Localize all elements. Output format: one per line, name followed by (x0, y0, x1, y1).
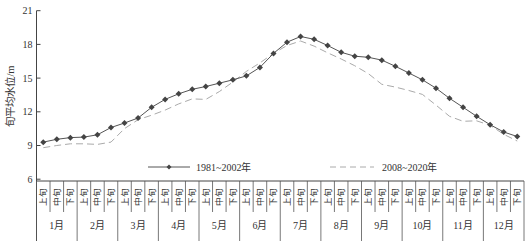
data-point-marker (122, 120, 128, 126)
data-point-marker (81, 134, 87, 140)
x-month-label: 4月 (171, 220, 186, 231)
data-point-marker (108, 125, 114, 131)
x-dekad-label: 中旬 (92, 188, 102, 206)
plot-area (40, 34, 520, 148)
y-axis-ticks: 6912151821 (23, 5, 41, 185)
y-tick-label: 18 (23, 39, 33, 50)
x-dekad-label: 上旬 (404, 188, 414, 206)
x-dekad-label: 上旬 (120, 188, 130, 206)
series-1981-2002-line (43, 37, 517, 143)
x-dekad-label: 下旬 (350, 188, 360, 206)
data-point-marker (460, 104, 466, 110)
x-month-label: 7月 (293, 220, 308, 231)
x-dekad-label: 下旬 (228, 188, 238, 206)
data-point-marker (501, 129, 507, 135)
data-point-marker (162, 96, 168, 102)
data-point-marker (94, 132, 100, 138)
data-point-marker (392, 63, 398, 69)
line-chart: 6912151821 旬平均水位/m 上旬中旬下旬上旬中旬下旬上旬中旬下旬上旬中… (0, 0, 530, 246)
x-dekad-label: 中旬 (499, 188, 509, 206)
data-point-marker (230, 77, 236, 83)
y-tick-label: 6 (28, 174, 33, 185)
y-tick-label: 15 (23, 73, 33, 84)
legend-label-series-1: 1981~2002年 (196, 161, 251, 173)
x-dekad-label: 下旬 (268, 188, 278, 206)
data-point-marker (54, 136, 60, 142)
x-dekad-label: 中旬 (133, 188, 143, 206)
y-tick-label: 21 (23, 5, 33, 16)
data-point-marker (406, 70, 412, 76)
y-tick-label: 9 (28, 140, 33, 151)
x-dekad-label: 中旬 (417, 188, 427, 206)
data-point-marker (203, 84, 209, 90)
x-month-label: 1月 (49, 220, 64, 231)
x-month-label: 10月 (412, 220, 432, 231)
legend: 1981~2002年 2008~2020年 (148, 161, 437, 173)
data-point-marker (189, 86, 195, 92)
x-month-label: 6月 (252, 220, 267, 231)
x-month-label: 8月 (334, 220, 349, 231)
x-dekad-label: 上旬 (241, 188, 251, 206)
x-dekad-label: 下旬 (431, 188, 441, 206)
x-dekad-label: 上旬 (160, 188, 170, 206)
data-point-marker (365, 54, 371, 60)
x-dekad-label: 下旬 (472, 188, 482, 206)
x-dekad-label: 下旬 (65, 188, 75, 206)
data-point-marker (419, 77, 425, 83)
data-point-marker (338, 49, 344, 55)
x-month-label: 9月 (374, 220, 389, 231)
x-dekad-label: 上旬 (445, 188, 455, 206)
y-tick-label: 12 (23, 106, 33, 117)
data-point-marker (40, 139, 46, 145)
legend-label-series-2: 2008~2020年 (382, 161, 437, 173)
x-dekad-label: 下旬 (390, 188, 400, 206)
x-axis-table: 上旬中旬下旬上旬中旬下旬上旬中旬下旬上旬中旬下旬上旬中旬下旬上旬中旬下旬上旬中旬… (37, 181, 525, 241)
x-dekad-label: 中旬 (52, 188, 62, 206)
x-dekad-label: 上旬 (282, 188, 292, 206)
x-month-label: 12月 (494, 220, 514, 231)
legend-item-series-1: 1981~2002年 (148, 161, 251, 173)
x-month-label: 11月 (453, 220, 473, 231)
x-dekad-label: 下旬 (187, 188, 197, 206)
x-dekad-label: 上旬 (323, 188, 333, 206)
x-dekad-label: 上旬 (485, 188, 495, 206)
series-2008-2020-line (43, 41, 517, 148)
x-dekad-label: 下旬 (147, 188, 157, 206)
x-month-label: 2月 (90, 220, 105, 231)
data-point-marker (379, 57, 385, 63)
data-point-marker (243, 73, 249, 79)
x-dekad-label: 下旬 (309, 188, 319, 206)
data-point-marker (216, 80, 222, 86)
data-point-marker (514, 134, 520, 140)
x-dekad-label: 中旬 (214, 188, 224, 206)
data-point-marker (352, 53, 358, 59)
x-dekad-label: 上旬 (201, 188, 211, 206)
x-dekad-label: 中旬 (377, 188, 387, 206)
x-dekad-label: 下旬 (512, 188, 522, 206)
data-point-marker (67, 135, 73, 141)
x-month-label: 5月 (212, 220, 227, 231)
x-dekad-label: 上旬 (79, 188, 89, 206)
x-dekad-label: 中旬 (255, 188, 265, 206)
data-point-marker (311, 36, 317, 42)
x-month-label: 3月 (131, 220, 146, 231)
diamond-marker-icon (167, 165, 172, 170)
data-point-marker (298, 34, 304, 40)
data-point-marker (325, 43, 331, 49)
x-dekad-label: 上旬 (363, 188, 373, 206)
data-point-marker (474, 113, 480, 119)
x-dekad-label: 中旬 (296, 188, 306, 206)
y-axis-label: 旬平均水位/m (4, 65, 16, 126)
x-dekad-label: 上旬 (38, 188, 48, 206)
x-dekad-label: 中旬 (174, 188, 184, 206)
x-dekad-label: 中旬 (458, 188, 468, 206)
x-dekad-label: 中旬 (336, 188, 346, 206)
x-dekad-label: 下旬 (106, 188, 116, 206)
data-point-marker (176, 91, 182, 97)
legend-item-series-2: 2008~2020年 (330, 161, 437, 173)
